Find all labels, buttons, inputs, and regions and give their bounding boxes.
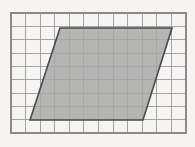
parallelogram-grid-figure xyxy=(0,0,195,147)
figure-container xyxy=(0,0,195,147)
